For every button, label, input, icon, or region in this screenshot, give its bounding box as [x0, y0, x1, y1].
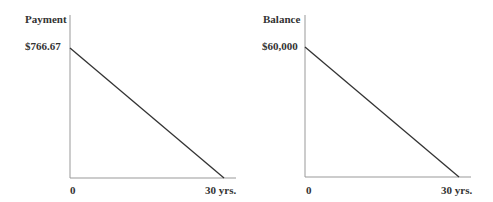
balance-x-tick-start: 0 [306, 184, 312, 196]
payment-y-tick: $766.67 [25, 40, 61, 52]
balance-x-tick-end: 30 yrs. [441, 184, 472, 196]
payment-y-label: Payment [25, 13, 67, 25]
balance-line [305, 47, 459, 177]
payment-chart [70, 15, 236, 178]
balance-y-label: Balance [263, 13, 300, 25]
payment-line [70, 48, 224, 178]
balance-chart [305, 15, 471, 177]
payment-x-tick-end: 30 yrs. [205, 184, 236, 196]
balance-y-tick: $60,000 [262, 40, 298, 52]
payment-x-tick-start: 0 [70, 184, 76, 196]
charts-canvas [0, 0, 493, 202]
